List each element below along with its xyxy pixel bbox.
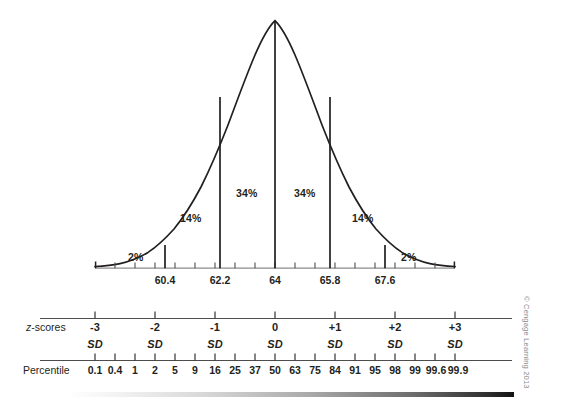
percentile-label-15: 98: [389, 365, 401, 376]
intensity-gradient-bar: [66, 392, 514, 397]
zscore-label-minus2: -2: [150, 322, 160, 333]
sd-unit-label-plus3: SD: [447, 339, 462, 350]
percentile-label-8: 37: [249, 365, 261, 376]
value-axis-label-64: 64: [269, 275, 281, 286]
sd-unit-label-minus1: SD: [207, 339, 222, 350]
sd-unit-label-minus2: SD: [147, 339, 162, 350]
zscores-suffix: -scores: [31, 321, 65, 333]
value-axis-label-62-2: 62.2: [210, 275, 230, 286]
region-percent-label-mean-to-plus1: 34%: [294, 188, 315, 199]
percentile-label-3: 2: [152, 365, 158, 376]
zscore-label-plus2: +2: [389, 322, 402, 333]
percentile-label-16: 99: [409, 365, 421, 376]
copyright-notice: © Cengage Learning 2013: [522, 296, 531, 389]
percentile-label-6: 16: [209, 365, 221, 376]
percentile-label-1: 0.4: [108, 365, 123, 376]
percentile-label-0: 0.1: [88, 365, 103, 376]
zscore-label-minus1: -1: [210, 322, 220, 333]
percentile-label-11: 75: [309, 365, 321, 376]
zscore-label-zero: 0: [272, 322, 278, 333]
percentile-label-4: 5: [172, 365, 178, 376]
percentile-label-13: 91: [349, 365, 361, 376]
sd-unit-label-plus2: SD: [387, 339, 402, 350]
value-axis-label-60-4: 60.4: [155, 275, 175, 286]
zscore-label-plus1: +1: [329, 322, 342, 333]
percentile-row-label: Percentile: [23, 365, 70, 376]
value-axis-label-65-8: 65.8: [320, 275, 340, 286]
region-percent-label-left-tail: 2%: [128, 252, 143, 263]
zscore-axis-ticks: [95, 312, 455, 319]
zscores-row-label: z-scores: [26, 322, 66, 333]
sd-unit-label-zero: SD: [267, 339, 282, 350]
region-percent-label-plus1-to-plus2: 14%: [352, 213, 373, 224]
sd-unit-label-plus1: SD: [327, 339, 342, 350]
zscore-label-minus3: -3: [90, 322, 100, 333]
sd-boundary-lines: [165, 22, 385, 269]
value-axis-label-67-6: 67.6: [375, 275, 395, 286]
percentile-label-18: 99.9: [448, 365, 468, 376]
percentile-label-2: 1: [132, 365, 138, 376]
region-percent-label-minus1-to-mean: 34%: [236, 188, 257, 199]
sd-unit-label-minus3: SD: [87, 339, 102, 350]
percentile-label-5: 9: [192, 365, 198, 376]
percentile-axis-ticks: [95, 354, 455, 361]
percentile-label-10: 63: [289, 365, 301, 376]
percentile-label-17: 99.6: [426, 365, 446, 376]
region-percent-label-minus2-to-minus1: 14%: [180, 213, 201, 224]
region-percent-label-right-tail: 2%: [401, 252, 416, 263]
zscore-label-plus3: +3: [449, 322, 462, 333]
percentile-label-12: 84: [329, 365, 341, 376]
percentile-label-7: 25: [229, 365, 241, 376]
percentile-label-14: 95: [369, 365, 381, 376]
figure-canvas: 2% 14% 34% 34% 14% 2% 60.4 62.2 64 65.8 …: [0, 0, 564, 402]
percentile-label-9: 50: [269, 365, 281, 376]
